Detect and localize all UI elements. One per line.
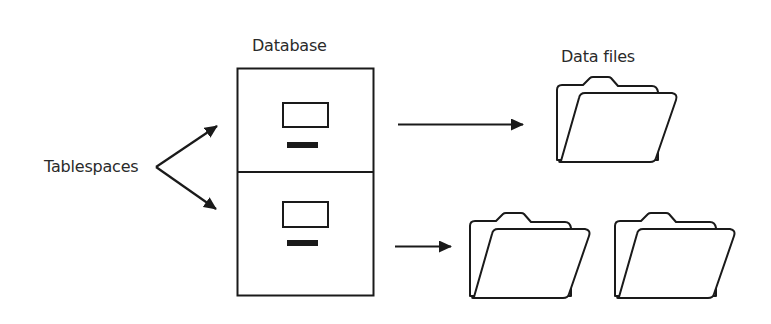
data-files-label: Data files [561,47,635,66]
drawer-1 [283,103,328,148]
arrow-to-drawer-2 [156,167,216,209]
arrow-to-drawer-1 [156,126,217,167]
drawer-1-handle [287,142,318,148]
database-cabinet-icon [238,69,374,296]
database-label: Database [252,36,327,55]
drawer-2 [283,202,328,246]
drawer-2-label-holder [283,202,328,227]
folder-icon [557,77,677,162]
tablespaces-arrows [156,126,217,209]
tablespaces-label: Tablespaces [44,157,138,176]
folder-icon [470,213,590,298]
drawer-2-handle [287,240,318,246]
folder-icon [615,213,735,298]
drawer-1-label-holder [283,103,328,127]
